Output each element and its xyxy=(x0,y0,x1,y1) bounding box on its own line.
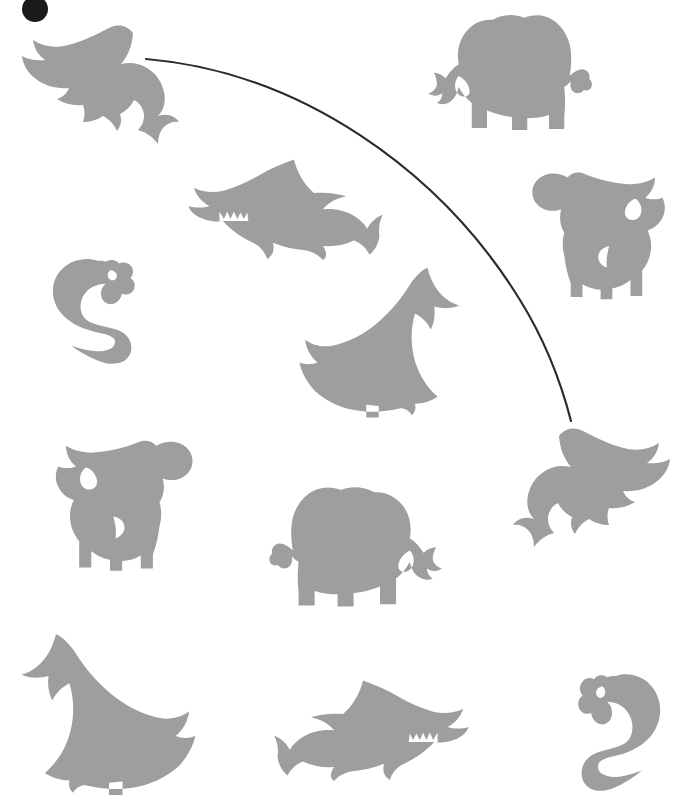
animal-silhouette-dolphin[interactable] xyxy=(513,425,678,550)
animal-silhouette-dolphin[interactable] xyxy=(14,22,179,147)
snake-icon xyxy=(53,259,135,364)
animal-silhouette-elephant[interactable] xyxy=(413,8,598,143)
cow-icon xyxy=(532,173,665,300)
cow-icon xyxy=(56,441,193,571)
whale-icon xyxy=(21,634,195,795)
animal-silhouette-cow[interactable] xyxy=(33,435,198,587)
matching-exercise-canvas xyxy=(0,0,695,807)
animal-silhouette-whale[interactable] xyxy=(14,628,199,800)
pointer-dot-icon xyxy=(22,0,48,22)
snake-icon xyxy=(578,674,660,791)
elephant-icon xyxy=(269,487,442,606)
animal-silhouette-whale[interactable] xyxy=(296,262,466,422)
shark-icon xyxy=(188,160,382,260)
dolphin-icon xyxy=(513,429,670,548)
animal-silhouette-elephant[interactable] xyxy=(263,480,458,620)
whale-icon xyxy=(299,268,459,418)
shark-icon xyxy=(274,681,468,781)
animal-silhouette-shark[interactable] xyxy=(185,152,385,260)
animal-silhouette-shark[interactable] xyxy=(272,673,472,781)
animal-silhouette-snake[interactable] xyxy=(28,257,150,363)
animal-silhouette-cow[interactable] xyxy=(527,167,687,315)
animal-silhouette-snake[interactable] xyxy=(563,672,685,790)
dolphin-icon xyxy=(22,26,179,145)
elephant-icon xyxy=(428,15,592,130)
